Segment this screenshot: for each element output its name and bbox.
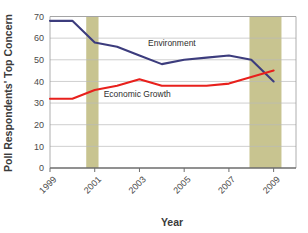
recession-band-2008: [249, 17, 281, 169]
y-tick-label-50: 50: [34, 55, 44, 65]
y-tick-label-40: 40: [34, 77, 44, 87]
y-tick-label-70: 70: [34, 12, 44, 22]
series-label-environment: Environment: [148, 38, 196, 48]
x-tick-label-2009: 2009: [261, 174, 282, 195]
y-tick-label-10: 10: [34, 142, 44, 152]
x-axis-ticks: 199920012003200520072009: [37, 168, 282, 196]
y-tick-label-60: 60: [34, 33, 44, 43]
x-tick-label-2001: 2001: [82, 174, 103, 195]
x-axis-title: Year: [161, 216, 183, 228]
y-axis-title: Poll Respondents' Top Concern: [2, 14, 14, 172]
x-tick-label-1999: 1999: [37, 174, 58, 195]
y-axis-ticks: 010203040506070: [34, 12, 44, 174]
x-tick-label-2007: 2007: [216, 174, 237, 195]
series-label-economic-growth: Economic Growth: [104, 89, 171, 99]
chart-canvas: 010203040506070 199920012003200520072009…: [0, 0, 308, 233]
line-chart: 010203040506070 199920012003200520072009…: [0, 0, 308, 233]
x-tick-label-2003: 2003: [127, 174, 148, 195]
series-line-environment: [50, 21, 274, 82]
x-tick-label-2005: 2005: [171, 174, 192, 195]
y-tick-label-0: 0: [39, 163, 44, 173]
y-tick-label-20: 20: [34, 120, 44, 130]
y-tick-label-30: 30: [34, 98, 44, 108]
